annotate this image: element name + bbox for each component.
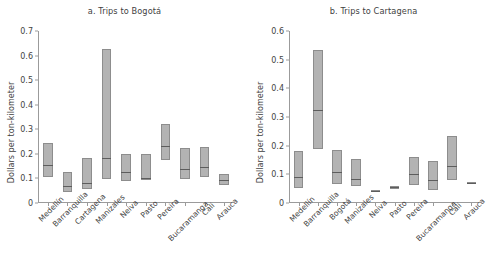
boxplot-median-line <box>371 191 381 192</box>
y-tick-mark <box>286 203 289 204</box>
panel-b-x-tick-labels: MedellínBarranquillaBogotáManizalesNeiva… <box>289 206 481 264</box>
boxplot-median-line <box>102 158 112 159</box>
boxplot-median-line <box>43 165 53 166</box>
boxplot-box <box>121 154 131 181</box>
boxplot-box <box>409 157 419 185</box>
panel-trips-to-bogota: a. Trips to Bogotá Dollars per ton-kilom… <box>0 0 249 265</box>
boxplot-box <box>82 158 92 190</box>
boxplot-box <box>102 49 112 178</box>
panel-b-y-axis-line <box>289 31 290 203</box>
boxplot-median-line <box>121 172 131 173</box>
boxplot-box <box>428 161 438 190</box>
boxplot-median-line <box>200 167 210 168</box>
boxplot-median-line <box>141 178 151 179</box>
boxplot-median-line <box>294 177 304 178</box>
boxplot-box <box>43 143 53 177</box>
panel-a-plot-area: 00.10.20.30.40.50.60.7 <box>38 31 234 203</box>
panel-a-y-axis-label: Dollars per ton-kilometer <box>4 0 20 265</box>
y-tick-mark <box>286 88 289 89</box>
y-tick-mark <box>35 129 38 130</box>
boxplot-box <box>200 147 210 177</box>
y-tick-mark <box>286 117 289 118</box>
boxplot-median-line <box>161 146 171 147</box>
y-tick-mark <box>286 174 289 175</box>
boxplot-median-line <box>332 172 342 173</box>
y-tick-mark <box>35 178 38 179</box>
y-tick-mark <box>35 153 38 154</box>
boxplot-median-line <box>428 180 438 181</box>
panel-b-title: b. Trips to Cartagena <box>249 6 498 16</box>
boxplot-box <box>63 172 73 192</box>
boxplot-box <box>294 151 304 187</box>
y-axis-label-text: Dollars per ton-kilometer <box>8 82 17 184</box>
boxplot-median-line <box>63 186 73 187</box>
boxplot-median-line <box>409 174 419 175</box>
y-tick-mark <box>286 145 289 146</box>
boxplot-box <box>161 124 171 160</box>
y-tick-mark <box>35 31 38 32</box>
y-tick-mark <box>286 31 289 32</box>
y-tick-mark <box>35 55 38 56</box>
boxplot-median-line <box>313 110 323 111</box>
panel-a-title: a. Trips to Bogotá <box>0 6 249 16</box>
boxplot-median-line <box>180 169 190 170</box>
y-tick-mark <box>35 80 38 81</box>
boxplot-median-line <box>219 180 229 181</box>
panel-trips-to-cartagena: b. Trips to Cartagena Dollars per ton-ki… <box>249 0 498 265</box>
panel-a-x-tick-labels: MedellínBarranquillaCartagenaManizalesNe… <box>38 206 234 264</box>
boxplot-median-line <box>82 183 92 184</box>
y-tick-mark <box>35 104 38 105</box>
boxplot-median-line <box>390 187 400 188</box>
panel-a-y-axis-line <box>38 31 39 203</box>
panel-b-plot-area: 00.10.20.30.40.50.6 <box>289 31 481 203</box>
panel-b-y-axis-label: Dollars per ton-kilometer <box>253 0 269 265</box>
y-tick-mark <box>286 59 289 60</box>
boxplot-box <box>141 154 151 180</box>
y-axis-label-text: Dollars per ton-kilometer <box>257 82 266 184</box>
boxplot-median-line <box>447 166 457 167</box>
boxplot-box <box>351 159 361 186</box>
boxplot-box <box>180 148 190 179</box>
figure-two-panel-boxplots: a. Trips to Bogotá Dollars per ton-kilom… <box>0 0 499 265</box>
boxplot-box <box>313 50 323 149</box>
y-tick-mark <box>35 203 38 204</box>
boxplot-box <box>332 150 342 184</box>
boxplot-box <box>447 136 457 180</box>
boxplot-median-line <box>467 183 477 184</box>
boxplot-median-line <box>351 179 361 180</box>
